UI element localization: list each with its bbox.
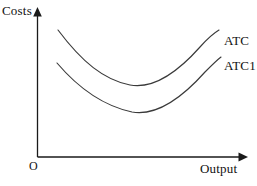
y-axis-arrow-icon (33, 7, 42, 17)
diagram-canvas (0, 0, 257, 186)
y-axis-label: Costs (2, 4, 32, 17)
atc-curve (58, 30, 219, 86)
origin-label: O (29, 160, 38, 173)
cost-curve-diagram: Costs Output O ATC ATC1 (0, 0, 257, 186)
x-axis-arrow-icon (239, 153, 249, 162)
atc1-curve-label: ATC1 (224, 59, 256, 72)
x-axis-label: Output (200, 162, 237, 175)
atc-curve-label: ATC (224, 34, 249, 47)
atc1-curve (57, 57, 221, 113)
